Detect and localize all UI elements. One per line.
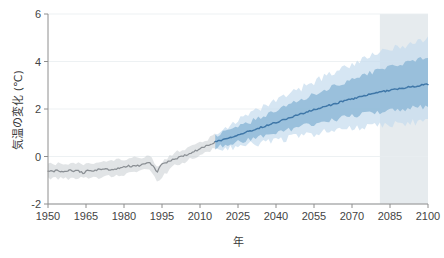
xtick-label-2055: 2055	[302, 210, 326, 222]
ytick-label-6: 6	[35, 8, 41, 20]
ytick-label--2: -2	[31, 198, 41, 210]
xtick-label-2040: 2040	[264, 210, 288, 222]
xtick-label-1950: 1950	[36, 210, 60, 222]
ytick-label-2: 2	[35, 103, 41, 115]
chart-canvas: 6420-21950196519801995201020252040205520…	[0, 0, 444, 258]
xtick-label-1980: 1980	[112, 210, 136, 222]
x-axis-title: 年	[233, 235, 244, 249]
ytick-label-0: 0	[35, 151, 41, 163]
xtick-label-1965: 1965	[74, 210, 98, 222]
xtick-label-2085: 2085	[378, 210, 402, 222]
ytick-label-4: 4	[35, 56, 41, 68]
xtick-label-2100: 2100	[416, 210, 440, 222]
xtick-label-2010: 2010	[188, 210, 212, 222]
xtick-label-1995: 1995	[150, 210, 174, 222]
xtick-label-2025: 2025	[226, 210, 250, 222]
temperature-projection-chart: 6420-21950196519801995201020252040205520…	[0, 0, 444, 258]
xtick-label-2070: 2070	[340, 210, 364, 222]
y-axis-title: 気温の変化 (℃)	[11, 70, 25, 149]
